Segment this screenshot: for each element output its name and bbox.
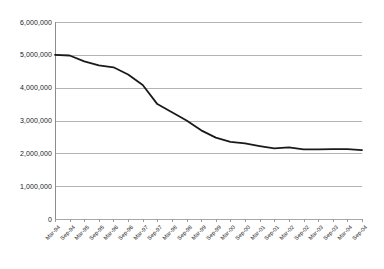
x-tick-sep-94 — [70, 219, 71, 222]
x-tick-sep-02 — [304, 219, 305, 222]
x-tick-mar-02 — [289, 219, 290, 222]
x-tick-sep-01 — [274, 219, 275, 222]
x-tick-sep-04 — [362, 219, 363, 222]
x-tick-mar-04 — [347, 219, 348, 222]
series-line-layer — [0, 0, 384, 269]
x-tick-sep-00 — [245, 219, 246, 222]
x-tick-sep-95 — [99, 219, 100, 222]
x-tick-mar-98 — [172, 219, 173, 222]
x-tick-sep-97 — [157, 219, 158, 222]
series-1-line — [55, 55, 362, 150]
x-tick-sep-96 — [128, 219, 129, 222]
x-tick-sep-98 — [187, 219, 188, 222]
x-tick-mar-00 — [230, 219, 231, 222]
x-tick-mar-97 — [143, 219, 144, 222]
x-tick-mar-01 — [260, 219, 261, 222]
x-tick-mar-99 — [201, 219, 202, 222]
x-tick-mar-96 — [113, 219, 114, 222]
x-tick-sep-99 — [216, 219, 217, 222]
x-tick-sep-03 — [333, 219, 334, 222]
x-tick-mar-95 — [84, 219, 85, 222]
x-tick-mar-03 — [318, 219, 319, 222]
x-tick-mar-94 — [55, 219, 56, 222]
line-chart: 01,000,0002,000,0003,000,0004,000,0005,0… — [0, 0, 384, 269]
